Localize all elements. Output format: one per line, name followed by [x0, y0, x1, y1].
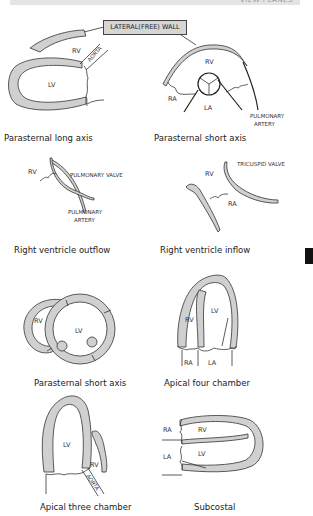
label-rv: RV — [205, 170, 214, 178]
echo-view-planes-figure: RV LV AORTA RV RA LA PULMONARY ARTERY RV… — [0, 0, 313, 516]
panel-parasternal-short-axis-top: RV RA LA PULMONARY ARTERY — [163, 33, 285, 127]
pulmonary-valve-leaflets — [40, 173, 56, 181]
label-pulmonary-valve: PULMONARY VALVE — [70, 172, 123, 178]
label-ra: RA — [163, 426, 172, 434]
pulmonary-artery-wall-inner — [218, 80, 242, 110]
caption-subcostal: Subcostal — [194, 502, 235, 512]
label-aorta: AORTA — [86, 45, 103, 63]
label-rv: RV — [90, 461, 99, 469]
caption-apical-three-chamber: Apical three chamber — [40, 502, 131, 512]
label-la: LA — [204, 104, 213, 112]
label-lv: LV — [198, 450, 206, 458]
caption-parasternal-short-axis-bottom: Parasternal short axis — [34, 378, 126, 388]
label-pulmonary: PULMONARY — [250, 113, 285, 119]
label-ra: RA — [184, 359, 193, 367]
label-lv: LV — [75, 327, 83, 335]
caption-parasternal-long-axis: Parasternal long axis — [4, 133, 93, 143]
label-ra: RA — [228, 200, 237, 208]
label-rv: RV — [34, 317, 43, 325]
caption-apical-four-chamber: Apical four chamber — [164, 378, 250, 388]
pulmonary-valve-leaflets — [226, 84, 248, 92]
mitral-leaflet — [222, 318, 228, 346]
label-rv: RV — [185, 316, 194, 324]
panel-parasternal-short-axis-bottom: RV LV — [24, 294, 115, 364]
label-lv: LV — [63, 441, 71, 449]
papillary-muscle-2 — [87, 337, 97, 347]
interventricular-septum — [196, 290, 206, 347]
pulmonary-artery-wall-outer — [243, 62, 258, 110]
outer-ventricular-wall — [178, 275, 238, 348]
panel-apical-three-chamber: LV RV AORTA — [42, 396, 107, 496]
ra-wall — [186, 184, 220, 232]
outer-ventricular-wall — [180, 416, 263, 472]
panel-right-ventricle-inflow: RV RA TRICUSPID VALVE — [186, 161, 285, 232]
papillary-muscle-1 — [57, 341, 67, 351]
label-rv: RV — [28, 168, 37, 176]
label-lv: LV — [211, 307, 219, 315]
lateral-free-wall-callout: LATERAL(FREE) WALL — [103, 20, 187, 35]
label-artery: ARTERY — [74, 217, 95, 223]
label-pulmonary: PULMONARY — [68, 209, 103, 215]
label-rv: RV — [72, 47, 81, 55]
tricuspid-leaflets — [210, 194, 228, 199]
panel-parasternal-long-axis: RV LV AORTA — [9, 27, 109, 110]
caption-parasternal-short-axis-top: Parasternal short axis — [154, 133, 246, 143]
mitral-valve-line — [180, 446, 183, 470]
label-aorta: AORTA — [85, 473, 100, 491]
callout-leader-left — [84, 27, 104, 32]
label-la: LA — [163, 453, 172, 461]
caption-right-ventricle-inflow: Right ventricle inflow — [160, 245, 250, 255]
label-rv: RV — [198, 426, 207, 434]
label-rv: RV — [205, 58, 214, 66]
lv-wall — [42, 396, 91, 472]
label-tricuspid-valve: TRICUSPID VALVE — [236, 161, 285, 167]
label-artery: ARTERY — [254, 121, 275, 127]
label-lv: LV — [48, 81, 56, 89]
label-ra: RA — [168, 95, 177, 103]
tricuspid-annulus-wall — [224, 162, 278, 203]
caption-right-ventricle-outflow: Right ventricle outflow — [14, 245, 110, 255]
panel-apical-four-chamber: RV LV RA LA — [178, 275, 238, 367]
panel-subcostal: RA RV LA LV — [162, 416, 263, 476]
tricuspid-leaflets — [168, 82, 196, 94]
av-valve-line — [178, 346, 236, 351]
la-wall-left — [184, 90, 198, 112]
lv-outflow-line — [87, 100, 104, 104]
panel-right-ventricle-outflow: RV PULMONARY VALVE PULMONARY ARTERY — [28, 158, 123, 223]
interventricular-septum — [182, 434, 248, 444]
label-la: LA — [208, 359, 217, 367]
